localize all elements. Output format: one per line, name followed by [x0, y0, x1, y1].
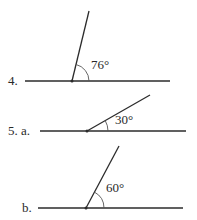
- figure-5a-angle-arc: [105, 121, 108, 131]
- figure-4-label: 4.: [8, 74, 18, 87]
- angle-figures-svg: [0, 0, 197, 220]
- figure-4-vertex-point: [71, 80, 74, 83]
- figure-5b-angle-label: 60°: [106, 181, 124, 194]
- figure-5b-label: b.: [22, 201, 32, 214]
- figure-5b-group: [38, 146, 183, 210]
- angle-diagram: 4. 76° 5. a. 30° b. 60°: [0, 0, 197, 220]
- figure-5b-ray: [86, 146, 119, 208]
- figure-5a-vertex-point: [86, 130, 89, 133]
- figure-4-ray: [72, 11, 89, 81]
- figure-5b-angle-arc: [94, 192, 104, 208]
- figure-5a-label: 5. a.: [8, 124, 30, 137]
- figure-5a-group: [40, 95, 186, 133]
- figure-4-angle-arc: [76, 64, 89, 81]
- figure-5b-vertex-point: [85, 207, 88, 210]
- figure-4-angle-label: 76°: [91, 58, 109, 71]
- figure-5a-angle-label: 30°: [115, 113, 133, 126]
